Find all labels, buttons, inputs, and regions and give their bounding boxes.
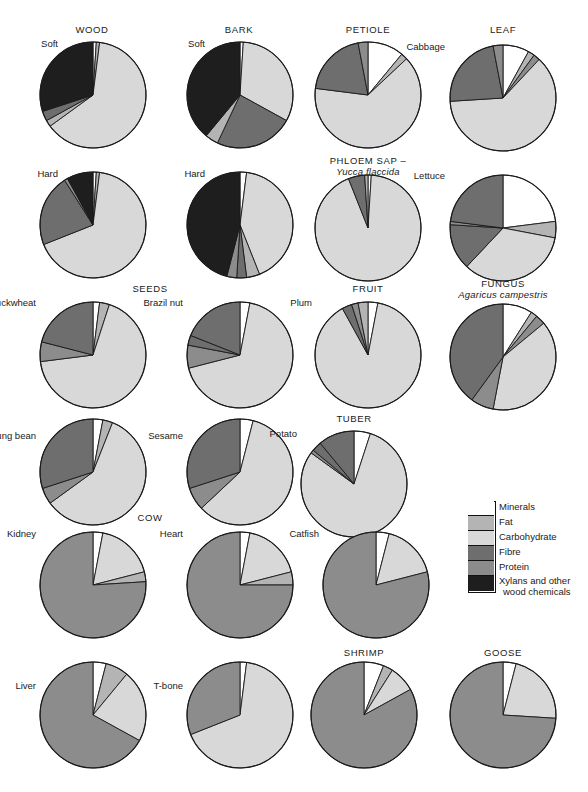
pie-chart-seeds-buckwheat: [38, 300, 148, 410]
pie-chart-leaf-cabbage: [448, 43, 558, 153]
pie-chart-goose: [448, 660, 558, 770]
pie-chart-fruit-plum: [313, 300, 423, 410]
legend-label-line1: Xylans and other: [499, 575, 570, 586]
pie-chart-leaf-lettuce: [448, 173, 558, 283]
pie-chart-fish-catfish: [321, 530, 431, 640]
group-title: LEAF: [403, 24, 588, 35]
pie-label-seeds-mung-bean: Mung bean: [0, 430, 36, 441]
pie-chart-petiole: [313, 40, 423, 150]
group-title: SEEDS: [50, 283, 250, 294]
pie-chart-cow-t-bone: [185, 660, 295, 770]
pie-label-cow-t-bone: T-bone: [123, 680, 183, 691]
pie-label-cow-kidney: Kidney: [0, 528, 36, 539]
legend-label-line1: Fibre: [499, 546, 521, 557]
group-title-text: TUBER: [336, 413, 371, 424]
legend-item: Minerals: [468, 501, 580, 516]
pie-label-fish-catfish: Catfish: [259, 528, 319, 539]
pie-chart-cow-kidney: [38, 530, 148, 640]
pie-label-fruit-plum: Plum: [252, 297, 312, 308]
legend-label: Fibre: [499, 546, 521, 557]
pie-label-bark-soft: Soft: [145, 38, 205, 49]
legend-label: Protein: [499, 561, 529, 572]
legend-label: Minerals: [499, 501, 535, 512]
pie-label-bark-hard: Hard: [145, 168, 205, 179]
pie-slice-minerals: [503, 175, 556, 228]
pie-chart-figure: WOODBARKPETIOLELEAFPHLOEM SAP –Yucca fla…: [0, 0, 588, 792]
pie-chart-shrimp: [309, 660, 419, 770]
group-title-text: FRUIT: [353, 283, 384, 294]
pie-label-leaf-lettuce: Lettuce: [385, 170, 445, 181]
group-title-text: GOOSE: [484, 647, 522, 658]
pie-chart-bark-soft: [185, 40, 295, 150]
group-title-text: LEAF: [490, 24, 516, 35]
pie-label-seeds-sesame: Sesame: [123, 430, 183, 441]
legend-swatch: [468, 561, 494, 576]
pie-label-wood-hard: Hard: [0, 168, 58, 179]
legend-label-line1: Carbohydrate: [499, 531, 557, 542]
group-title-text: WOOD: [75, 24, 108, 35]
group-title: GOOSE: [403, 647, 588, 658]
pie-label-wood-soft: Soft: [0, 38, 58, 49]
legend-item: Xylans and otherwood chemicals: [468, 576, 580, 591]
legend-swatch: [468, 516, 494, 531]
pie-chart-wood-hard: [38, 170, 148, 280]
group-title-text: SHRIMP: [344, 647, 385, 658]
group-title-text: BARK: [225, 24, 253, 35]
pie-label-cow-heart: Heart: [123, 528, 183, 539]
pie-label-cow-liver: Liver: [0, 680, 36, 691]
pie-chart-cow-liver: [38, 660, 148, 770]
legend-swatch: [468, 546, 494, 561]
composition-legend: MineralsFatCarbohydrateFibreProteinXylan…: [468, 501, 580, 591]
legend-item: Carbohydrate: [468, 531, 580, 546]
group-title-text: SEEDS: [132, 283, 167, 294]
pie-label-leaf-cabbage: Cabbage: [385, 41, 445, 52]
legend-label-line1: Fat: [499, 516, 513, 527]
legend-label: Xylans and otherwood chemicals: [499, 575, 571, 597]
legend-swatch: [468, 531, 494, 546]
pie-label-seeds-brazil-nut: Brazil nut: [123, 297, 183, 308]
pie-chart-bark-hard: [185, 170, 295, 280]
legend-item: Fat: [468, 516, 580, 531]
group-title-text: PHLOEM SAP –: [330, 155, 407, 166]
legend-label-line2: wood chemicals: [499, 586, 571, 597]
pie-chart-wood-soft: [38, 40, 148, 150]
pie-chart-seeds-brazil-nut: [185, 300, 295, 410]
pie-chart-tuber-potato: [299, 429, 409, 539]
legend-label-line1: Protein: [499, 561, 529, 572]
pie-chart-phloem-sap-yucca: [313, 173, 423, 283]
legend-item: Fibre: [468, 546, 580, 561]
pie-slice-fibre: [450, 175, 503, 228]
legend-swatch: [468, 576, 494, 591]
legend-swatch: [468, 501, 494, 516]
group-title-text: PETIOLE: [346, 24, 390, 35]
group-title-species: Agaricus campestris: [458, 289, 547, 300]
legend-item: Protein: [468, 561, 580, 576]
pie-chart-fungus-agaricus: [448, 302, 558, 412]
legend-label-line1: Minerals: [499, 501, 535, 512]
legend-label: Fat: [499, 516, 513, 527]
pie-chart-cow-heart: [185, 530, 295, 640]
pie-label-seeds-buckwheat: Buckwheat: [0, 297, 36, 308]
pie-label-tuber-potato: Potato: [237, 428, 297, 439]
legend-label: Carbohydrate: [499, 531, 557, 542]
